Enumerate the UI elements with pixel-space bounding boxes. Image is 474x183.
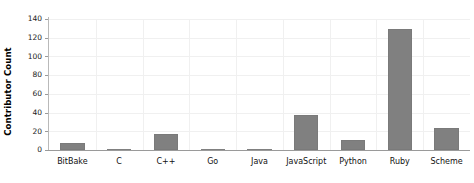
y-tick-label-text: 100 bbox=[14, 53, 42, 61]
x-tick-label-java: Java bbox=[236, 155, 283, 167]
x-tick-label-c: C bbox=[96, 155, 143, 167]
bar-chart: Contributor Count 020406080100120140 Bit… bbox=[0, 0, 474, 183]
y-tick-label-text: 140 bbox=[14, 15, 42, 23]
x-tick-label-scheme: Scheme bbox=[423, 155, 470, 167]
y-tick-label: 20 bbox=[14, 126, 42, 136]
y-tick-mark bbox=[45, 113, 48, 114]
gridline-horizontal bbox=[49, 19, 470, 20]
bar-c bbox=[107, 149, 131, 151]
x-tick-label-cpp: C++ bbox=[143, 155, 190, 167]
gridline-vertical bbox=[143, 19, 144, 150]
x-tick-label-bitbake: BitBake bbox=[49, 155, 96, 167]
plot-area bbox=[49, 19, 470, 150]
y-tick-label-text: 40 bbox=[14, 109, 42, 117]
y-tick-mark bbox=[45, 94, 48, 95]
bar-bitbake bbox=[60, 143, 84, 150]
y-tick-label-text: 80 bbox=[14, 71, 42, 79]
y-tick-label-text: 0 bbox=[14, 146, 42, 154]
y-tick-label: 40 bbox=[14, 108, 42, 118]
bar-java bbox=[247, 149, 271, 151]
y-tick-label: 120 bbox=[14, 33, 42, 43]
bar-go bbox=[201, 149, 225, 151]
gridline-vertical bbox=[330, 19, 331, 150]
bar-python bbox=[341, 140, 365, 150]
y-tick-label-text: 20 bbox=[14, 128, 42, 136]
gridline-vertical bbox=[189, 19, 190, 150]
x-tick-label-ruby: Ruby bbox=[376, 155, 423, 167]
y-tick-mark bbox=[45, 38, 48, 39]
bar-scheme bbox=[434, 128, 458, 150]
y-tick-label: 140 bbox=[14, 14, 42, 24]
gridline-vertical bbox=[236, 19, 237, 150]
gridline-vertical bbox=[283, 19, 284, 150]
y-tick-label: 60 bbox=[14, 89, 42, 99]
y-tick-label-text: 60 bbox=[14, 90, 42, 98]
y-tick-mark bbox=[45, 150, 48, 151]
y-tick-label-text: 120 bbox=[14, 34, 42, 42]
y-tick-label: 100 bbox=[14, 51, 42, 61]
bar-javascript bbox=[294, 115, 318, 150]
y-tick-mark bbox=[45, 56, 48, 57]
y-tick-label: 0 bbox=[14, 145, 42, 155]
gridline-vertical bbox=[376, 19, 377, 150]
x-axis-spine bbox=[48, 150, 470, 151]
y-tick-mark bbox=[45, 131, 48, 132]
gridline-vertical bbox=[423, 19, 424, 150]
x-tick-label-python: Python bbox=[330, 155, 377, 167]
bar-cpp bbox=[154, 134, 178, 150]
bar-ruby bbox=[388, 29, 412, 150]
y-tick-label: 80 bbox=[14, 70, 42, 80]
x-tick-label-go: Go bbox=[189, 155, 236, 167]
y-tick-mark bbox=[45, 19, 48, 20]
y-tick-mark bbox=[45, 75, 48, 76]
gridline-vertical bbox=[96, 19, 97, 150]
x-tick-label-javascript: JavaScript bbox=[283, 155, 330, 167]
